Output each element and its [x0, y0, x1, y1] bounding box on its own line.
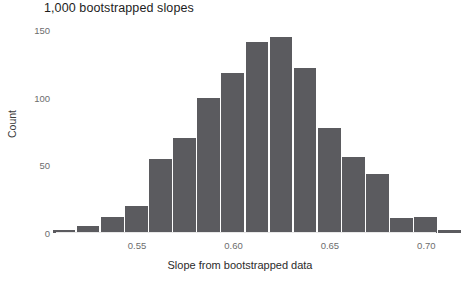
x-axis-tick-label: 0.70 [417, 240, 436, 251]
x-axis-tick-label: 0.60 [224, 240, 243, 251]
histogram-bar [438, 230, 461, 233]
x-axis-tick-label: 0.65 [321, 240, 340, 251]
x-axis-title: Slope from bootstrapped data [60, 259, 420, 271]
x-axis-tick-label: 0.55 [128, 240, 147, 251]
